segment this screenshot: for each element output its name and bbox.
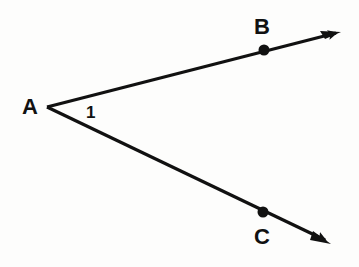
point-label-b: B	[254, 16, 270, 38]
vertex-label-a: A	[22, 96, 38, 118]
arrowhead-c-icon	[310, 231, 331, 244]
angle-label-1: 1	[86, 104, 95, 121]
angle-diagram: A 1 B C	[0, 0, 359, 267]
ray-ab-line	[47, 33, 336, 107]
point-c-dot	[258, 207, 269, 218]
point-b-dot	[259, 45, 270, 56]
ray-ac-line	[47, 107, 325, 240]
point-label-c: C	[254, 226, 270, 248]
angle-figure	[0, 0, 359, 267]
